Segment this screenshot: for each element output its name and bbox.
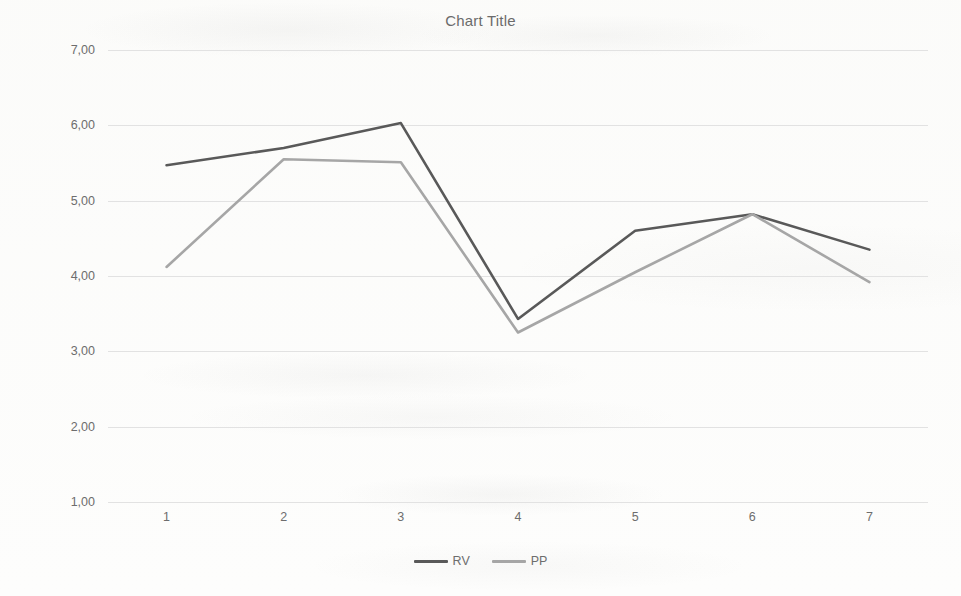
x-axis-tick-label: 6 xyxy=(749,510,756,524)
x-axis-tick-label: 4 xyxy=(515,510,522,524)
y-axis-tick-label: 7,00 xyxy=(71,43,95,57)
x-axis-tick-label: 2 xyxy=(280,510,287,524)
x-axis-tick-label: 3 xyxy=(397,510,404,524)
x-axis-tick-label: 5 xyxy=(632,510,639,524)
legend-label: RV xyxy=(453,554,470,568)
x-axis-tick-label: 7 xyxy=(866,510,873,524)
legend-swatch-icon xyxy=(414,560,448,563)
chart-legend: RVPP xyxy=(0,554,961,568)
plot-area: 7,006,005,004,003,002,001,00 1234567 xyxy=(108,50,928,502)
line-chart: Chart Title 7,006,005,004,003,002,001,00… xyxy=(0,0,961,596)
y-axis-tick-label: 4,00 xyxy=(71,269,95,283)
legend-label: PP xyxy=(531,554,548,568)
legend-swatch-icon xyxy=(492,560,526,563)
series-lines xyxy=(108,50,928,502)
y-axis-tick-label: 1,00 xyxy=(71,495,95,509)
series-line-pp xyxy=(167,159,870,332)
y-axis-tick-label: 3,00 xyxy=(71,344,95,358)
y-axis-tick-label: 5,00 xyxy=(71,194,95,208)
y-axis-tick-label: 2,00 xyxy=(71,420,95,434)
chart-title: Chart Title xyxy=(0,12,961,29)
y-axis-tick-label: 6,00 xyxy=(71,118,95,132)
legend-item-rv[interactable]: RV xyxy=(414,554,470,568)
legend-item-pp[interactable]: PP xyxy=(492,554,548,568)
gridline xyxy=(108,502,928,503)
x-axis-tick-label: 1 xyxy=(163,510,170,524)
